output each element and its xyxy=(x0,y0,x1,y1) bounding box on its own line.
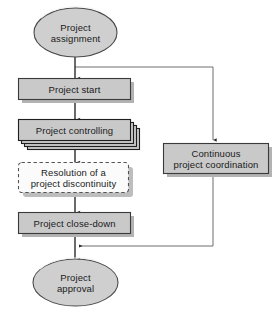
node-project-assignment-shape[interactable] xyxy=(34,7,117,57)
node-resolution-of-a-project-discontinuity-shape[interactable] xyxy=(19,163,134,198)
diagram-vector-layer xyxy=(0,0,280,313)
node-project-controlling-shape[interactable] xyxy=(19,120,140,150)
flowchart-diagram: Project assignment Project start Project… xyxy=(0,0,280,313)
node-project-close-down-shape[interactable] xyxy=(19,213,135,238)
node-project-start-shape[interactable] xyxy=(19,79,135,104)
node-project-approval-shape[interactable] xyxy=(33,258,118,306)
node-continuous-project-coordination-shape[interactable] xyxy=(164,144,273,178)
